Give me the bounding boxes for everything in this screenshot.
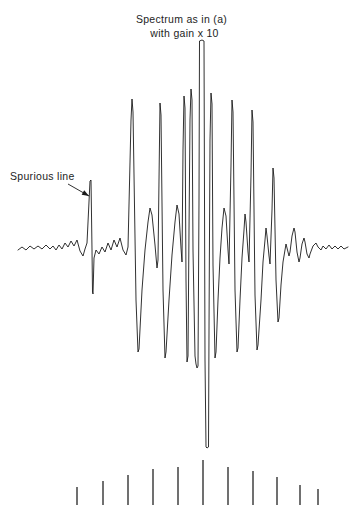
tick-marks-group bbox=[0, 0, 363, 519]
spectrum-figure: Spectrum as in (a) with gain x 10 Spurio… bbox=[0, 0, 363, 519]
